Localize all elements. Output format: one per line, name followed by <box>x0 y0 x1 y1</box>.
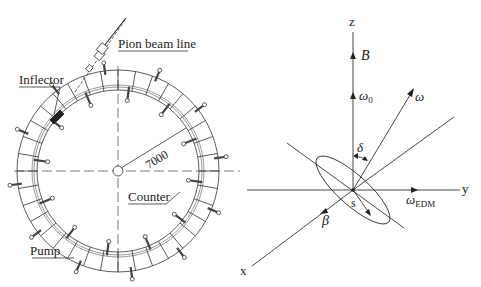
detector-tip-icon <box>182 255 186 259</box>
delta-label: δ <box>357 140 364 155</box>
detector-tip-icon <box>89 103 93 107</box>
ring-segment-divider <box>170 94 183 109</box>
x-axis-label: x <box>240 263 247 278</box>
omega0-label: ω0 <box>359 88 373 105</box>
spin-arrowhead <box>365 209 371 216</box>
storage-ring-figure <box>8 18 240 281</box>
inflector-label: Inflector <box>19 72 64 87</box>
beam-magnet-3 <box>86 64 94 72</box>
tilted-plane-line <box>353 117 454 190</box>
ring-segment-divider <box>180 223 195 236</box>
B-label: B <box>361 48 370 63</box>
pump-label: Pump <box>30 243 60 258</box>
detector-tip-icon <box>107 239 111 243</box>
detector-tip-icon <box>102 61 106 65</box>
detector-tip-icon <box>46 160 50 164</box>
detector-tip-icon <box>15 127 19 131</box>
omega-edm-label: ωEDM <box>406 192 435 209</box>
detector-tip-icon <box>50 196 54 200</box>
detector-tip-icon <box>158 68 162 72</box>
inflector-block <box>50 110 64 124</box>
detector-tip-icon <box>224 155 228 159</box>
delta-arrowhead-right <box>362 156 368 161</box>
detector-tip-icon <box>130 277 134 281</box>
detector-tip-icon <box>143 235 147 239</box>
omega0-arrowhead <box>350 92 356 99</box>
arrowheads <box>320 52 418 216</box>
z-axis-label: z <box>349 14 355 29</box>
detector-tip-icon <box>159 113 163 117</box>
y-axis-label: y <box>462 181 469 196</box>
pion-beam-line-label: Pion beam line <box>118 36 196 51</box>
ring-segment-divider <box>53 94 66 109</box>
vector-diagram <box>247 32 460 266</box>
B-arrowhead <box>350 52 356 59</box>
detector-tip-icon <box>217 211 221 215</box>
detector-tip-icon <box>186 178 190 182</box>
beta-label: β <box>321 213 329 228</box>
detector-tip-icon <box>125 99 129 103</box>
ring-segment-divider <box>170 233 183 248</box>
counter-label: Counter <box>128 189 171 204</box>
detector-tip-icon <box>202 103 206 107</box>
detector-tip-icon <box>60 126 64 130</box>
orbit-plane-line <box>287 143 404 228</box>
omega-arrowhead <box>407 88 414 97</box>
detector-tip-icon <box>182 142 186 146</box>
ring-segment-divider <box>180 106 195 119</box>
detector-tip-icon <box>8 183 12 187</box>
radius-label: 7000 <box>143 147 171 172</box>
diagram-canvas: Pion beam line Inflector 7000 Counter Pu… <box>0 0 481 287</box>
diagram-svg: Pion beam line Inflector 7000 Counter Pu… <box>0 0 481 287</box>
detector-tip-icon <box>30 235 34 239</box>
detector-tip-icon <box>172 212 176 216</box>
spin-label: s <box>351 196 356 210</box>
detector-tip-icon <box>74 270 78 274</box>
ring-segment-divider <box>41 223 56 236</box>
x-axis <box>252 190 353 266</box>
omega-label: ω <box>415 89 424 104</box>
detector-tip-icon <box>73 225 77 229</box>
origin-point <box>351 188 355 192</box>
